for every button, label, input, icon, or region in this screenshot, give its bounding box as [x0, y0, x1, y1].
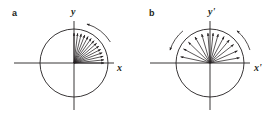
panel-a-diagram: [0, 0, 135, 124]
panel-a-y-axis-label: y: [71, 7, 75, 17]
panel-a: a: [0, 0, 135, 124]
panel-a-vector-fan: [74, 33, 104, 63]
panel-b-y-axis-label: y': [208, 7, 215, 17]
panel-a-x-axis-label: x: [117, 63, 122, 73]
panel-b: b: [136, 0, 271, 124]
figure-container: a: [0, 0, 271, 124]
panel-b-rotation-arc-arrow-right: [237, 31, 250, 50]
panel-b-diagram: [136, 0, 271, 124]
panel-b-x-axis-label: x': [254, 63, 262, 73]
panel-b-rotation-arc-arrow-left: [170, 31, 183, 50]
